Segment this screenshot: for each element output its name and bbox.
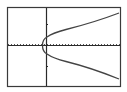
- graph-screen: [0, 0, 127, 92]
- graph-canvas: [0, 0, 127, 92]
- graph-window-frame: [8, 8, 121, 87]
